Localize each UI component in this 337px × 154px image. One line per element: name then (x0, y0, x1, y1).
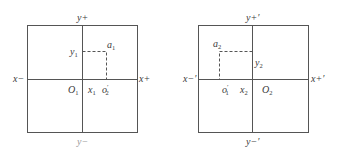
left-point-label: a1 (107, 39, 115, 51)
right-y-minus-label: y−′ (245, 136, 260, 147)
right-x-coord-label: x2 (239, 84, 248, 96)
right-y-coord-label: y2 (254, 57, 263, 69)
left-y-plus-label: y+ (76, 12, 88, 23)
right-x-minus-label: x−′ (182, 73, 197, 84)
left-x-plus-label: x+ (138, 73, 150, 84)
right-origin-label: O2 (262, 84, 272, 96)
left-x-minus-label: x− (12, 73, 24, 84)
right-y-plus-label: y+′ (245, 12, 260, 23)
right-projection-dashes (220, 52, 253, 80)
left-origin-label: O1 (68, 84, 78, 96)
right-projected-origin-label: o′1 (222, 83, 229, 96)
left-projection-dashes (83, 52, 107, 80)
left-projected-origin-label: o′2 (102, 83, 109, 96)
left-y-coord-label: y1 (69, 46, 78, 58)
left-x-coord-label: x1 (87, 84, 96, 96)
right-coordinate-panel: y+′ y−′ x−′ x+′ O2 x2 y2 a2 o′1 (182, 12, 325, 147)
left-coordinate-panel: y+ y− x− x+ O1 x1 y1 a1 o′2 (12, 12, 150, 147)
right-point-label: a2 (213, 38, 221, 50)
left-y-minus-label: y− (76, 136, 88, 147)
right-x-plus-label: x+′ (310, 73, 325, 84)
coordinate-systems-diagram: y+ y− x− x+ O1 x1 y1 a1 o′2 y+′ y−′ x−′ … (0, 0, 337, 154)
